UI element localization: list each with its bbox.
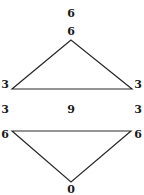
- middle-left-number: 3: [1, 104, 9, 115]
- down-triangle-right-label: 6: [134, 129, 142, 140]
- downward-triangle: [12, 131, 131, 182]
- middle-right-number: 3: [134, 104, 142, 115]
- upward-triangle: [12, 40, 132, 89]
- up-triangle-right-label: 3: [134, 79, 142, 90]
- up-triangle-apex-label: 6: [67, 26, 75, 37]
- up-triangle-left-label: 3: [1, 79, 9, 90]
- middle-center-number: 9: [67, 104, 75, 115]
- down-triangle-left-label: 6: [1, 129, 9, 140]
- down-triangle-bottom-label: 0: [67, 184, 75, 195]
- top-number: 6: [67, 8, 75, 19]
